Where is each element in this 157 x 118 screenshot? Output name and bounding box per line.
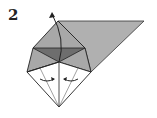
arrowhead-up-icon <box>49 12 55 18</box>
origami-diagram <box>0 0 157 118</box>
